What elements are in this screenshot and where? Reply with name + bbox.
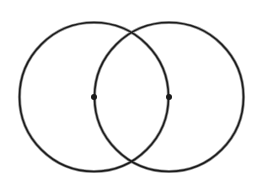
vesica-piscis-diagram	[0, 0, 260, 176]
circle-shadows	[20, 23, 244, 172]
circles	[20, 23, 244, 172]
center-points	[91, 94, 172, 100]
right-center-dot	[166, 94, 172, 100]
left-center-dot	[91, 94, 97, 100]
